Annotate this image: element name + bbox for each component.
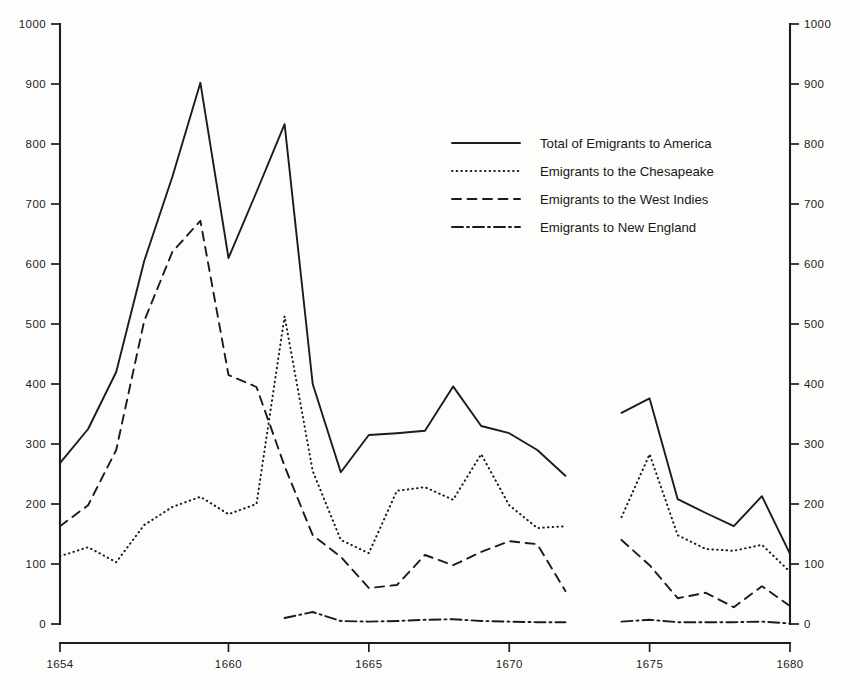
x-tick-label: 1654 — [46, 658, 73, 670]
y-tick-label-left: 200 — [26, 498, 46, 510]
y-tick-label-left: 700 — [26, 198, 46, 210]
emigration-line-chart: 01002003004005006007008009001000 0100200… — [0, 0, 860, 690]
x-tick-label: 1665 — [355, 658, 382, 670]
series-line-total — [60, 83, 565, 476]
y-axis-right-ticks: 01002003004005006007008009001000 — [790, 18, 831, 630]
y-tick-label-left: 0 — [39, 618, 46, 630]
legend-entry: Emigrants to the Chesapeake — [452, 164, 714, 179]
y-tick-label-left: 100 — [26, 558, 46, 570]
y-tick-label-right: 300 — [804, 438, 824, 450]
legend-entry: Total of Emigrants to America — [452, 136, 712, 151]
series-line-total — [622, 398, 791, 553]
series-line-newengland — [285, 612, 566, 622]
x-axis-ticks: 165416601665167016751680 — [46, 643, 803, 670]
chart-legend: Total of Emigrants to AmericaEmigrants t… — [452, 136, 714, 235]
chart-page: 01002003004005006007008009001000 0100200… — [0, 0, 860, 690]
x-tick-label: 1670 — [496, 658, 523, 670]
y-tick-label-right: 800 — [804, 138, 824, 150]
series-line-chesapeake — [60, 316, 565, 562]
y-tick-label-right: 700 — [804, 198, 824, 210]
y-axis-left-ticks: 01002003004005006007008009001000 — [19, 18, 60, 630]
legend-entry: Emigrants to New England — [452, 220, 696, 235]
series-line-newengland — [622, 620, 791, 624]
series-line-westindies — [622, 540, 791, 607]
y-tick-label-left: 500 — [26, 318, 46, 330]
y-tick-label-right: 600 — [804, 258, 824, 270]
y-tick-label-right: 1000 — [804, 18, 831, 30]
legend-entry: Emigrants to the West Indies — [452, 192, 709, 207]
legend-label: Emigrants to the West Indies — [540, 192, 709, 207]
y-tick-label-left: 800 — [26, 138, 46, 150]
x-tick-label: 1675 — [636, 658, 663, 670]
y-tick-label-right: 200 — [804, 498, 824, 510]
legend-label: Total of Emigrants to America — [540, 136, 712, 151]
y-tick-label-left: 900 — [26, 78, 46, 90]
y-tick-label-right: 400 — [804, 378, 824, 390]
y-tick-label-left: 400 — [26, 378, 46, 390]
y-axis-left: 01002003004005006007008009001000 — [19, 18, 60, 630]
y-tick-label-right: 900 — [804, 78, 824, 90]
y-tick-label-right: 0 — [804, 618, 811, 630]
y-tick-label-right: 500 — [804, 318, 824, 330]
y-axis-right: 01002003004005006007008009001000 — [790, 18, 831, 630]
y-tick-label-left: 300 — [26, 438, 46, 450]
x-tick-label: 1680 — [776, 658, 803, 670]
y-tick-label-left: 600 — [26, 258, 46, 270]
x-tick-label: 1660 — [215, 658, 242, 670]
y-tick-label-left: 1000 — [19, 18, 46, 30]
legend-label: Emigrants to the Chesapeake — [540, 164, 714, 179]
legend-label: Emigrants to New England — [540, 220, 696, 235]
x-axis: 165416601665167016751680 — [46, 643, 803, 670]
y-tick-label-right: 100 — [804, 558, 824, 570]
